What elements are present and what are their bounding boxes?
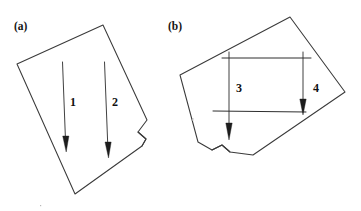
speck-2: [40, 205, 41, 206]
figure-drawing: (a) 1 2 (b): [0, 0, 361, 211]
panel-b: (b) 3 4: [168, 17, 345, 155]
arrow-2-number: 2: [112, 95, 118, 109]
arrow-1-number: 1: [70, 95, 76, 109]
panel-a: (a) 1 2: [14, 20, 147, 194]
panel-b-label: (b): [168, 20, 182, 33]
panel-a-sheet-outline: [17, 25, 147, 194]
panel-b-sheet-outline: [180, 17, 345, 155]
speck-1: [192, 118, 193, 121]
arrow-4-number: 4: [313, 81, 319, 95]
arrow-3-number: 3: [236, 81, 242, 95]
panel-a-label: (a): [14, 20, 28, 33]
figure-container: (a) 1 2 (b): [0, 0, 361, 211]
